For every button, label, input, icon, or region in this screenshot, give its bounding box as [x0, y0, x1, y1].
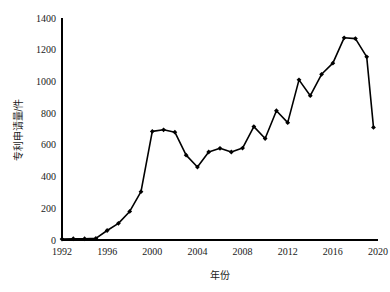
y-axis-title: 专利申请量/件: [12, 99, 24, 162]
y-tick-label: 1400: [36, 13, 56, 24]
data-point-markers: [60, 35, 376, 241]
x-tick-label: 2016: [323, 246, 343, 257]
y-tick-label: 800: [41, 108, 56, 119]
x-axis-tick-labels: 19921996200020042008201220162020: [52, 246, 388, 257]
y-tick-label: 1000: [36, 76, 56, 87]
data-point-marker: [60, 237, 65, 242]
x-tick-label: 2008: [233, 246, 253, 257]
data-point-marker: [342, 35, 347, 40]
x-tick-label: 2020: [368, 246, 388, 257]
y-tick-label: 1200: [36, 44, 56, 55]
y-tick-label: 600: [41, 139, 56, 150]
y-axis-tick-labels: 0200400600800100012001400: [36, 13, 56, 246]
y-tick-label: 400: [41, 171, 56, 182]
x-tick-label: 2000: [142, 246, 162, 257]
x-tick-label: 2004: [187, 246, 207, 257]
data-point-marker: [229, 150, 234, 155]
x-axis-title: 年份: [210, 269, 230, 281]
x-tick-label: 1996: [97, 246, 117, 257]
y-tick-label: 0: [51, 235, 56, 246]
data-series-line: [62, 38, 373, 239]
data-point-marker: [218, 146, 223, 151]
data-point-marker: [371, 125, 376, 130]
chart-canvas: 0200400600800100012001400 19921996200020…: [0, 0, 390, 292]
x-tick-label: 2012: [278, 246, 298, 257]
data-point-marker: [150, 129, 155, 134]
patent-application-line-chart: 0200400600800100012001400 19921996200020…: [0, 0, 390, 292]
y-tick-label: 200: [41, 203, 56, 214]
data-point-marker: [161, 127, 166, 132]
x-tick-label: 1992: [52, 246, 72, 257]
